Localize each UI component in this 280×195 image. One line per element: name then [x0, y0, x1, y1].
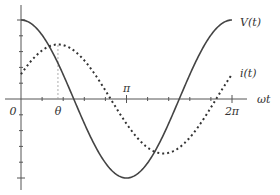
x-axis-label: ωt — [257, 93, 271, 106]
x-tick-label: π — [122, 82, 131, 95]
x-tick-label: θ — [55, 105, 62, 118]
x-tick-label: 2π — [224, 105, 240, 118]
chart: 0θπ2πωtV(t)i(t) — [0, 0, 280, 195]
series-label-i: i(t) — [240, 67, 257, 80]
x-tick-label: 0 — [10, 105, 17, 118]
series-label-v: V(t) — [240, 16, 261, 29]
